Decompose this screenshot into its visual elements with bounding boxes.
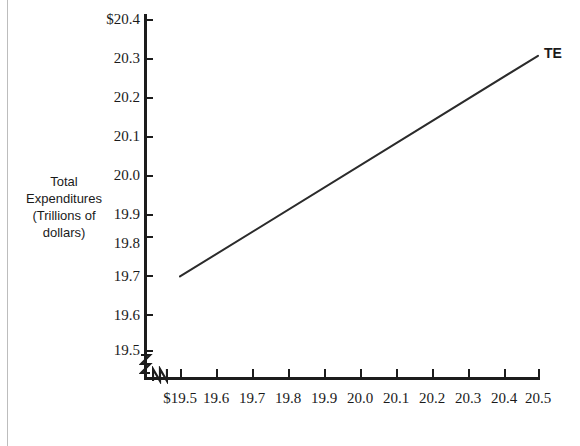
y-axis-tick <box>147 236 153 238</box>
y-axis-tick-label: 20.2 <box>40 90 140 105</box>
y-axis-tick <box>147 214 153 216</box>
y-axis-line <box>144 14 147 380</box>
y-axis-tick-label: 19.7 <box>40 269 140 284</box>
chart-container: $20.4 20.3 20.2 20.1 20.0 19.9 19.8 19.7… <box>0 0 580 446</box>
y-axis-title-line-1: Total <box>12 173 116 190</box>
x-axis-break-icon <box>152 366 168 384</box>
y-axis-tick <box>147 275 153 277</box>
y-axis-tick-label: $20.4 <box>40 12 140 27</box>
x-axis-tick <box>216 369 218 377</box>
y-axis-tick <box>147 58 153 60</box>
y-axis-tick-label-group: 19.6 <box>36 308 140 323</box>
y-axis-tick <box>147 97 153 99</box>
y-axis-title-line-3: (Trillions of <box>12 207 116 224</box>
y-axis-tick <box>147 175 153 177</box>
y-axis-tick-label-group: 19.5 <box>36 343 140 358</box>
y-axis-tick <box>147 350 153 352</box>
y-axis-tick <box>147 314 153 316</box>
y-axis-tick-label: 20.1 <box>40 129 140 144</box>
y-axis-tick-label: 19.5 <box>40 343 140 358</box>
series-label-te: TE <box>544 46 562 60</box>
y-axis-title-line-2: Expenditures <box>12 190 116 207</box>
series-line-te <box>180 56 538 277</box>
y-axis-tick-label-group: 20.3 <box>36 51 140 66</box>
y-axis-tick-label-group: $20.4 <box>36 12 140 27</box>
x-axis-tick <box>538 369 540 377</box>
y-axis-title-line-4: dollars) <box>12 224 116 241</box>
x-axis-tick <box>360 369 362 377</box>
x-axis-tick <box>432 369 434 377</box>
x-axis-tick <box>324 369 326 377</box>
y-axis-tick <box>147 136 153 138</box>
x-axis-tick <box>396 369 398 377</box>
y-axis-tick-label: 20.3 <box>40 51 140 66</box>
x-axis-tick-label: 20.5 <box>508 390 568 406</box>
x-axis-tick <box>180 369 182 377</box>
y-axis-tick-label-group: 19.7 <box>36 269 140 284</box>
y-axis-title: Total Expenditures (Trillions of dollars… <box>12 173 116 241</box>
y-axis-tick-label-group: 20.2 <box>36 90 140 105</box>
x-axis-tick <box>468 369 470 377</box>
y-axis-tick-label-group: 20.1 <box>36 129 140 144</box>
y-axis-tick <box>147 19 153 21</box>
x-axis-tick <box>504 369 506 377</box>
x-axis-line <box>144 377 540 380</box>
x-axis-tick <box>252 369 254 377</box>
page-edge-rule <box>7 0 8 446</box>
x-axis-tick <box>288 369 290 377</box>
y-axis-tick-label: 19.6 <box>40 308 140 323</box>
y-axis-break-icon <box>139 353 153 375</box>
